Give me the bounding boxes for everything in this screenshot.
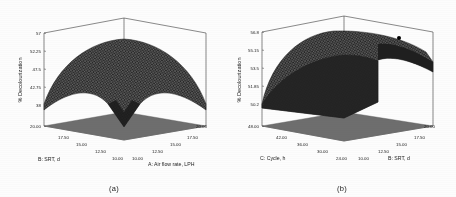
plot-a-ztick-1: 52.25 xyxy=(30,49,42,54)
plot-a-canvas: 57 52.25 47.5 42.75 38 20.00 17.50 15.00… xyxy=(0,0,228,197)
plot-b-xtick-3: 17.50 xyxy=(414,135,426,140)
surface-plot-a: 57 52.25 47.5 42.75 38 20.00 17.50 15.00… xyxy=(0,0,228,197)
plot-a-xtick-3: 17.50 xyxy=(187,135,199,140)
plot-b-y-axis-title: C: Cycle, h xyxy=(260,155,285,161)
plot-a-ztick-3: 42.75 xyxy=(30,85,42,90)
plot-a-ytick-2: 15.00 xyxy=(76,142,88,147)
plot-a-ytick-0: 10.00 xyxy=(112,156,124,161)
plot-a-ztick-4: 38 xyxy=(36,103,41,108)
plot-b-floor-tick: 48.00 xyxy=(248,124,260,129)
plot-b-ztick-1: 55.15 xyxy=(248,48,260,53)
plot-a-xtick-0: 10.00 xyxy=(132,156,144,161)
plot-b-xtick-0: 10.00 xyxy=(358,156,370,161)
plot-b-ztick-0: 56.8 xyxy=(250,30,259,35)
panel-b-caption: (b) xyxy=(228,184,456,193)
plot-a-xtick-1: 12.50 xyxy=(152,149,164,154)
plot-a-y-axis-title: B: SRT, d xyxy=(38,156,60,162)
plot-b-ytick-2: 36.00 xyxy=(297,142,309,147)
plot-b-z-axis-title: % Decolourization xyxy=(236,57,242,102)
panel-a-caption: (a) xyxy=(0,184,228,193)
plot-a-x-axis-title: A: Air flow rate, LPH xyxy=(148,161,195,167)
plot-b-xtick-4: 20.00 xyxy=(424,124,436,129)
plot-a-xtick-2: 15.00 xyxy=(170,142,182,147)
surface-plot-b: 56.8 55.15 53.5 51.85 50.2 48.00 42.00 3… xyxy=(228,0,456,197)
plot-b-ztick-3: 51.85 xyxy=(248,84,260,89)
plot-a-xtick-4: 20.00 xyxy=(196,124,208,129)
plot-b-ztick-2: 53.5 xyxy=(250,66,259,71)
plot-b-xtick-1: 12.50 xyxy=(378,149,390,154)
plot-a-ytick-1: 12.50 xyxy=(95,149,107,154)
plot-b-xtick-2: 15.00 xyxy=(396,142,408,147)
design-point-marker xyxy=(397,36,401,40)
plot-a-floor-tick: 20.00 xyxy=(30,124,42,129)
plot-b-x-axis-title: B: SRT, d xyxy=(388,155,410,161)
figure-container: 57 52.25 47.5 42.75 38 20.00 17.50 15.00… xyxy=(0,0,456,197)
plot-b-ytick-3: 42.00 xyxy=(276,135,288,140)
plot-b-ztick-4: 50.2 xyxy=(250,102,259,107)
plot-a-z-axis-title: % Decolourization xyxy=(17,57,23,102)
plot-a-ztick-0: 57 xyxy=(36,31,41,36)
plot-b-canvas: 56.8 55.15 53.5 51.85 50.2 48.00 42.00 3… xyxy=(228,0,456,197)
plot-b-ytick-0: 24.00 xyxy=(336,156,348,161)
plot-a-ztick-2: 47.5 xyxy=(32,67,41,72)
plot-a-ytick-3: 17.50 xyxy=(58,135,70,140)
plot-b-ytick-1: 30.00 xyxy=(317,149,329,154)
